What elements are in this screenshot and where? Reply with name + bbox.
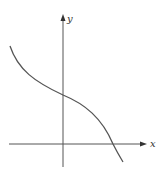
x-axis-label: x [150, 138, 156, 149]
y-axis-label: y [66, 13, 73, 24]
y-axis-arrow-icon [61, 14, 66, 21]
x-axis-arrow-icon [140, 142, 147, 147]
function-curve [10, 46, 123, 162]
function-graph: y x [0, 0, 164, 173]
